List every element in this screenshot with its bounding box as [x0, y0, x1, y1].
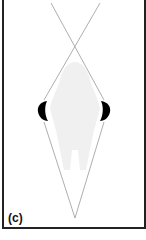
diagram-drawing	[0, 0, 146, 240]
right-blob	[100, 101, 110, 121]
left-blob	[38, 101, 48, 121]
panel-label: (c)	[8, 211, 23, 225]
